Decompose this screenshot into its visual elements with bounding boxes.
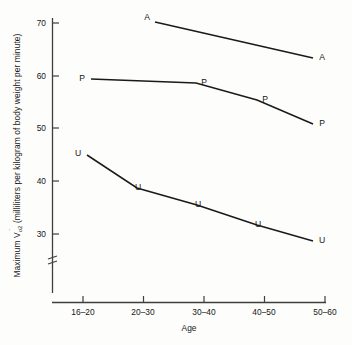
- data-point-u-40-50: U: [253, 219, 263, 229]
- x-axis-title: Age: [0, 323, 352, 333]
- x-axis-title-text: Age: [182, 323, 197, 333]
- data-point-p-16-20: P: [77, 73, 87, 83]
- y-tick-label-60: 60: [26, 71, 46, 81]
- data-point-u-20-30: U: [133, 182, 143, 192]
- x-tick-label-16-20: 16–20: [60, 307, 106, 317]
- data-point-p-50-60: P: [317, 118, 327, 128]
- data-point-a-50-60: A: [317, 52, 327, 62]
- series-a-line: [155, 22, 313, 58]
- plot-area: [0, 0, 352, 345]
- data-point-p-30-40: P: [199, 77, 209, 87]
- x-tick-label-30-40: 30–40: [181, 307, 227, 317]
- y-tick-label-70: 70: [26, 18, 46, 28]
- y-tick-label-50: 50: [26, 123, 46, 133]
- data-point-p-40-50: P: [260, 94, 270, 104]
- chart-container: Maximum V˙o2 (milliliters per kilogram o…: [0, 0, 352, 345]
- series-u-line: [87, 155, 313, 241]
- y-tick-label-30: 30: [26, 229, 46, 239]
- x-tick-label-20-30: 20–30: [120, 307, 166, 317]
- data-point-u-30-40: U: [193, 199, 203, 209]
- y-tick-marks: [53, 23, 60, 234]
- x-tick-marks: [83, 296, 325, 303]
- data-point-u-16-20: U: [73, 148, 83, 158]
- data-point-u-50-60: U: [317, 235, 327, 245]
- data-point-a-30-40: A: [142, 12, 152, 22]
- x-tick-label-50-60: 50–60: [302, 307, 348, 317]
- x-tick-label-40-50: 40–50: [241, 307, 287, 317]
- y-tick-label-40: 40: [26, 176, 46, 186]
